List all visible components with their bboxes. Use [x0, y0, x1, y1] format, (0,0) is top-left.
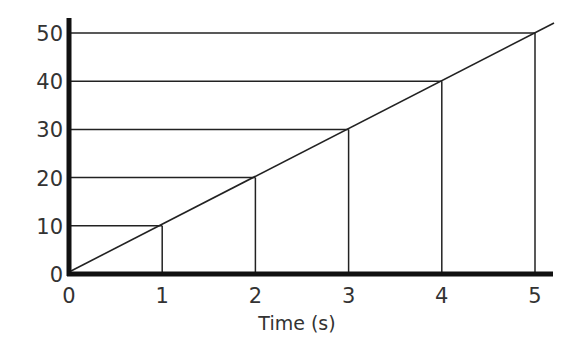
x-tick-label: 5: [528, 284, 541, 308]
y-tick-labels: 01020304050: [36, 22, 63, 287]
y-tick-label: 40: [36, 70, 63, 94]
x-tick-label: 0: [62, 284, 75, 308]
y-tick-label: 50: [36, 22, 63, 46]
chart: 01020304050 012345 Time (s): [0, 0, 581, 354]
data-line: [71, 23, 554, 271]
x-axis-label: Time (s): [257, 312, 335, 334]
y-tick-label: 10: [36, 215, 63, 239]
y-tick-label: 0: [50, 263, 63, 287]
x-tick-label: 2: [249, 284, 262, 308]
x-tick-label: 4: [435, 284, 448, 308]
x-tick-labels: 012345: [62, 284, 541, 308]
y-tick-label: 30: [36, 118, 63, 142]
x-tick-label: 3: [342, 284, 355, 308]
x-tick-label: 1: [156, 284, 169, 308]
y-tick-label: 20: [36, 167, 63, 191]
